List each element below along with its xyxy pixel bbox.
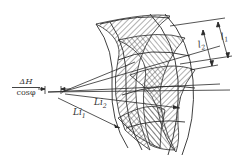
delta-h-numerator: ΔH (12, 78, 40, 88)
li1-symbol: Li (73, 107, 82, 117)
delta-h-dimension (38, 86, 70, 94)
cos-phi-denominator: cosφ (12, 88, 40, 97)
delta-h-over-cos-phi-label: ΔH cosφ (12, 78, 40, 97)
li2-symbol: Li (94, 97, 103, 107)
blade-row (96, 15, 195, 152)
li1-label: Li1 (73, 108, 86, 119)
li2-label: Li2 (94, 98, 107, 109)
li2-subscript: 2 (103, 102, 107, 109)
li1-subscript: 1 (82, 112, 86, 119)
